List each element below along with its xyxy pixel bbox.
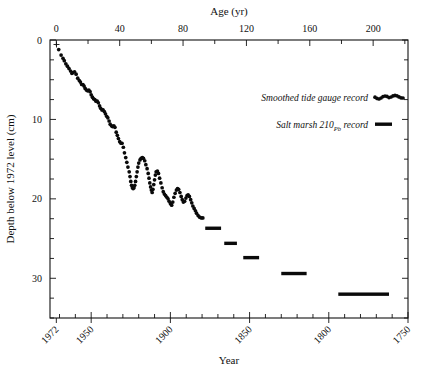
data-point bbox=[145, 167, 149, 171]
data-point bbox=[124, 156, 128, 160]
top-tick-label: 120 bbox=[239, 23, 254, 34]
y-tick-label: 10 bbox=[32, 114, 42, 125]
data-point bbox=[190, 201, 194, 205]
data-point bbox=[183, 199, 187, 203]
y-tick-label: 20 bbox=[32, 193, 42, 204]
data-point bbox=[125, 160, 129, 164]
data-point bbox=[153, 173, 157, 177]
legend-marker-salt-marsh bbox=[375, 123, 392, 126]
right-axis-ticks bbox=[402, 40, 408, 318]
data-point bbox=[171, 200, 175, 204]
legend-salt-marsh-suffix: record bbox=[341, 120, 368, 130]
salt-marsh-bar bbox=[205, 227, 221, 230]
data-point bbox=[179, 195, 183, 199]
y-axis-title: Depth below 1972 level (cm) bbox=[4, 114, 17, 243]
data-point bbox=[123, 151, 127, 155]
data-point bbox=[128, 175, 132, 179]
data-point bbox=[107, 119, 111, 123]
data-point bbox=[188, 195, 192, 199]
data-point bbox=[113, 126, 117, 130]
data-point bbox=[158, 176, 162, 180]
figure-container: Age (yr) Year Depth below 1972 level (cm… bbox=[0, 0, 433, 371]
data-point bbox=[62, 59, 66, 63]
y-axis-tick-labels: 0102030 bbox=[32, 35, 42, 284]
legend-marker-dot bbox=[401, 96, 405, 100]
data-point bbox=[146, 172, 150, 176]
data-point bbox=[173, 191, 177, 195]
salt-marsh-bar bbox=[224, 242, 237, 245]
data-point bbox=[115, 133, 119, 137]
data-point bbox=[152, 183, 156, 187]
y-tick-label: 0 bbox=[37, 35, 42, 46]
plot-frame bbox=[50, 40, 408, 318]
data-point bbox=[150, 191, 154, 195]
legend-marker-tide-gauge bbox=[373, 94, 405, 101]
top-tick-label: 40 bbox=[115, 23, 125, 34]
legend-item-salt-marsh-label: Salt marsh 210Pb record bbox=[276, 120, 368, 132]
salt-marsh-bar bbox=[338, 292, 389, 295]
top-axis-ticks bbox=[56, 40, 404, 46]
bottom-tick-label: 1750 bbox=[390, 324, 412, 346]
top-axis-tick-labels: 04080120160200 bbox=[54, 23, 381, 34]
bottom-tick-label: 1972 bbox=[39, 324, 61, 346]
salt-marsh-bar bbox=[243, 256, 259, 259]
legend-item-tide-gauge-label: Smoothed tide gauge record bbox=[261, 93, 368, 103]
data-point bbox=[178, 191, 182, 195]
data-point bbox=[153, 178, 157, 182]
y-axis-ticks bbox=[50, 40, 56, 318]
data-point bbox=[177, 187, 181, 191]
data-point bbox=[136, 165, 140, 169]
top-tick-label: 200 bbox=[366, 23, 381, 34]
data-point bbox=[143, 159, 147, 163]
bottom-tick-label: 1950 bbox=[74, 324, 96, 346]
bottom-axis-title: Year bbox=[219, 354, 240, 366]
legend-salt-marsh-prefix: Salt marsh 210 bbox=[276, 120, 334, 130]
data-point bbox=[133, 184, 137, 188]
data-point bbox=[137, 161, 141, 165]
origin-plus-marker bbox=[54, 42, 60, 48]
top-tick-label: 80 bbox=[178, 23, 188, 34]
data-point bbox=[59, 53, 63, 57]
data-point bbox=[144, 163, 148, 167]
salt-marsh-series bbox=[205, 227, 389, 296]
data-point bbox=[114, 130, 118, 134]
tide-gauge-series bbox=[57, 48, 205, 220]
data-point bbox=[189, 198, 193, 202]
data-point bbox=[157, 172, 161, 176]
data-point bbox=[160, 186, 164, 190]
data-point bbox=[126, 165, 130, 169]
data-point bbox=[148, 181, 152, 185]
top-axis-title: Age (yr) bbox=[210, 5, 248, 18]
data-point bbox=[121, 145, 125, 149]
data-point bbox=[106, 116, 110, 120]
data-point bbox=[88, 90, 92, 94]
bottom-tick-label: 1850 bbox=[232, 324, 254, 346]
legend: Smoothed tide gauge record Salt marsh 21… bbox=[261, 93, 405, 132]
salt-marsh-bar bbox=[281, 272, 306, 275]
data-point bbox=[201, 216, 205, 220]
data-point bbox=[135, 170, 139, 174]
bottom-axis-tick-labels: 197219501900185018001750 bbox=[39, 324, 413, 346]
data-point bbox=[134, 175, 138, 179]
data-point bbox=[159, 181, 163, 185]
bottom-tick-label: 1900 bbox=[153, 324, 175, 346]
top-tick-label: 160 bbox=[302, 23, 317, 34]
data-point bbox=[134, 180, 138, 184]
data-point bbox=[96, 101, 100, 105]
bottom-tick-label: 1800 bbox=[311, 324, 333, 346]
top-tick-label: 0 bbox=[54, 23, 59, 34]
data-point bbox=[147, 176, 151, 180]
data-point bbox=[170, 203, 174, 207]
data-point bbox=[57, 48, 61, 52]
data-point bbox=[151, 187, 155, 191]
data-point bbox=[120, 141, 124, 145]
sea-level-depth-chart: Age (yr) Year Depth below 1972 level (cm… bbox=[0, 0, 433, 371]
data-point bbox=[172, 195, 176, 199]
data-point bbox=[127, 170, 131, 174]
data-point bbox=[129, 180, 133, 184]
data-point bbox=[74, 72, 78, 76]
data-point bbox=[117, 137, 121, 141]
y-tick-label: 30 bbox=[32, 273, 42, 284]
